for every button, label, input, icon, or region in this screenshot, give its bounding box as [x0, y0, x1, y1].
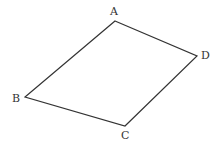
- quadrilateral-abcd: [25, 21, 197, 126]
- vertex-label-b: B: [12, 93, 20, 104]
- vertex-label-c: C: [121, 130, 129, 141]
- quadrilateral-figure: [0, 0, 224, 148]
- vertex-label-d: D: [201, 50, 210, 61]
- vertex-label-a: A: [110, 6, 118, 17]
